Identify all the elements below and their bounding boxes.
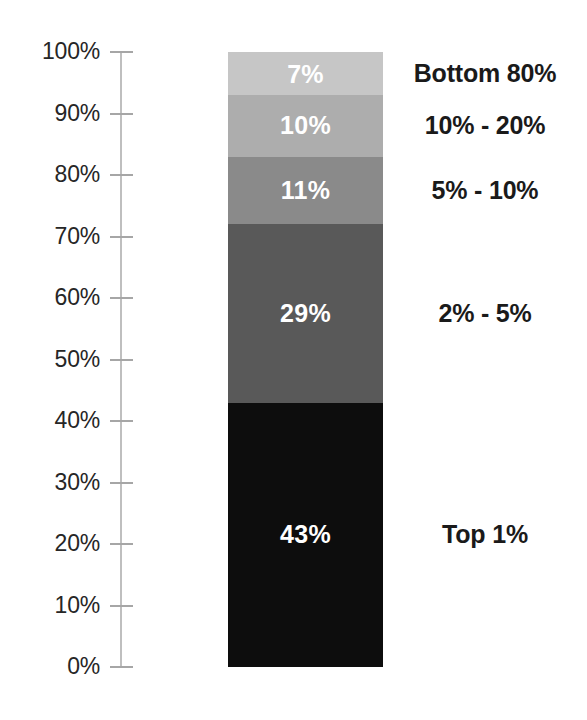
y-axis-tick-label: 40% bbox=[0, 404, 100, 437]
stacked-bar-chart: 100%90%80%70%60%50%40%30%20%10%0% 7%10%1… bbox=[0, 0, 587, 720]
category-label-row: 2% - 5% bbox=[383, 224, 587, 402]
y-axis-tick-mark bbox=[110, 359, 133, 361]
bar-segment[interactable]: 7% bbox=[228, 52, 383, 95]
y-axis-tick-mark bbox=[110, 113, 133, 115]
category-label: 5% - 10% bbox=[432, 176, 539, 205]
category-label-row: 5% - 10% bbox=[383, 157, 587, 225]
y-axis-tick-label: 70% bbox=[0, 220, 100, 253]
y-axis-tick-label: 10% bbox=[0, 589, 100, 622]
bar-segment[interactable]: 11% bbox=[228, 157, 383, 225]
y-axis-tick-label: 20% bbox=[0, 527, 100, 560]
y-axis-tick-label: 90% bbox=[0, 97, 100, 130]
category-label-row: Top 1% bbox=[383, 403, 587, 667]
bar-segment-value-label: 11% bbox=[281, 176, 331, 205]
category-label-row: 10% - 20% bbox=[383, 95, 587, 157]
y-axis-tick-mark bbox=[110, 51, 133, 53]
y-axis-tick-mark bbox=[110, 605, 133, 607]
category-label-row: Bottom 80% bbox=[383, 52, 587, 95]
category-label: 10% - 20% bbox=[425, 111, 546, 140]
y-axis-tick-mark bbox=[110, 174, 133, 176]
category-label-group: Bottom 80%10% - 20%5% - 10%2% - 5%Top 1% bbox=[383, 52, 587, 667]
y-axis-tick-mark bbox=[110, 297, 133, 299]
bar-segment-value-label: 7% bbox=[287, 60, 324, 89]
bar-segment-value-label: 10% bbox=[280, 111, 331, 140]
bar-segment[interactable]: 10% bbox=[228, 95, 383, 157]
y-axis-tick-label: 60% bbox=[0, 281, 100, 314]
y-axis-tick-label: 30% bbox=[0, 466, 100, 499]
bar-segment-value-label: 43% bbox=[280, 520, 331, 549]
category-label: Top 1% bbox=[442, 520, 528, 549]
bar-segment[interactable]: 29% bbox=[228, 224, 383, 402]
y-axis-tick-mark bbox=[110, 236, 133, 238]
y-axis-tick-label: 0% bbox=[0, 650, 100, 683]
y-axis-tick-mark bbox=[110, 666, 133, 668]
y-axis-tick-mark bbox=[110, 482, 133, 484]
bar-segment[interactable]: 43% bbox=[228, 403, 383, 667]
y-axis-tick-label: 100% bbox=[0, 35, 100, 68]
bar-segment-value-label: 29% bbox=[280, 299, 331, 328]
y-axis-tick-label: 50% bbox=[0, 343, 100, 376]
category-label: Bottom 80% bbox=[414, 59, 556, 88]
category-label: 2% - 5% bbox=[438, 299, 531, 328]
y-axis-tick-mark bbox=[110, 543, 133, 545]
y-axis: 100%90%80%70%60%50%40%30%20%10%0% bbox=[0, 0, 210, 720]
stacked-bar[interactable]: 7%10%11%29%43% bbox=[228, 52, 383, 667]
y-axis-tick-mark bbox=[110, 420, 133, 422]
y-axis-tick-label: 80% bbox=[0, 158, 100, 191]
